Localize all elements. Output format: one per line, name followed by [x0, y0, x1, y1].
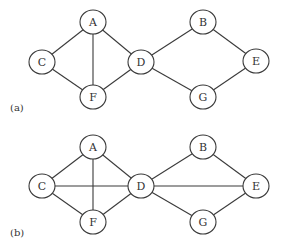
node-label: E: [252, 180, 260, 193]
panel-b-graph: ACFDBEG(b): [10, 135, 269, 238]
node-label: F: [89, 91, 97, 104]
panel-label: (a): [10, 102, 24, 113]
panel-a-graph: ACFDBEG(a): [10, 10, 269, 113]
node-label: A: [88, 16, 98, 29]
node-a: A: [80, 10, 106, 34]
node-label: D: [137, 56, 146, 69]
node-f: F: [80, 85, 106, 109]
node-label: G: [199, 91, 208, 104]
node-c: C: [29, 174, 55, 198]
node-d: D: [128, 174, 154, 198]
node-g: G: [190, 85, 216, 109]
node-d: D: [128, 50, 154, 74]
node-label: D: [137, 180, 146, 193]
node-a: A: [80, 135, 106, 159]
node-label: B: [199, 141, 207, 154]
node-label: F: [89, 216, 97, 229]
node-label: C: [38, 180, 46, 193]
node-e: E: [243, 49, 269, 73]
node-b: B: [190, 135, 216, 159]
node-c: C: [29, 50, 55, 74]
node-e: E: [243, 174, 269, 198]
node-label: E: [252, 55, 260, 68]
node-f: F: [80, 210, 106, 234]
node-b: B: [190, 10, 216, 34]
node-label: G: [199, 216, 208, 229]
node-g: G: [190, 210, 216, 234]
panel-label: (b): [10, 227, 24, 238]
node-label: A: [88, 141, 98, 154]
graph-diagram: ACFDBEG(a) ACFDBEG(b): [0, 0, 286, 251]
node-label: B: [199, 16, 207, 29]
node-label: C: [38, 56, 46, 69]
